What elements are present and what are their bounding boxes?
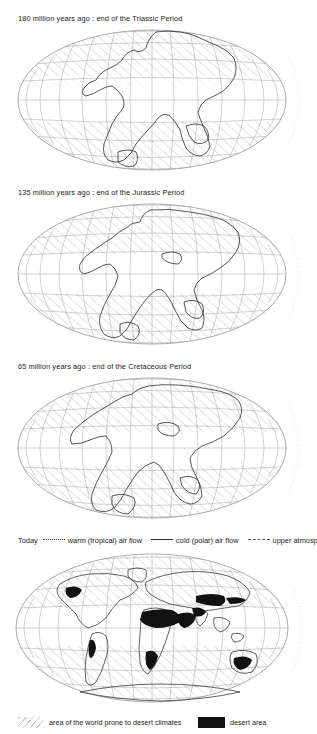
- caption-today: Today: [18, 536, 38, 545]
- legend-upper-atmosphere-label: upper atmosphere air flow: [273, 536, 317, 545]
- panel-jurassic: 135 million years ago : end of the Juras…: [0, 188, 317, 350]
- map-cretaceous: [0, 372, 317, 524]
- hatch-swatch-icon: [18, 717, 44, 728]
- globe-today: [0, 548, 317, 708]
- globe-jurassic: [0, 198, 317, 350]
- globe-cretaceous: [0, 372, 317, 524]
- today-legend-row: Today warm (tropical) air flow cold (pol…: [18, 536, 317, 545]
- solid-line-icon: [151, 539, 173, 540]
- legend-desert-area: desert area: [198, 717, 266, 728]
- legend-desert-prone-label: area of the world prone to desert climat…: [49, 718, 181, 727]
- legend-cold-air-flow: cold (polar) air flow: [151, 536, 238, 545]
- caption-jurassic: 135 million years ago : end of the Juras…: [18, 188, 317, 198]
- edge-ticks-today: [290, 580, 303, 676]
- panel-cretaceous: 65 million years ago : end of the Cretac…: [0, 362, 317, 524]
- dash-dot-line-icon: [248, 539, 270, 540]
- panel-triassic: 180 million years ago : end of the Trias…: [0, 14, 317, 176]
- dotted-line-icon: [43, 539, 65, 540]
- edge-ticks-jurassic: [288, 228, 301, 320]
- caption-cretaceous: 65 million years ago : end of the Cretac…: [18, 362, 317, 372]
- legend-upper-atmosphere-air-flow: upper atmosphere air flow: [248, 536, 317, 545]
- bottom-legend: area of the world prone to desert climat…: [0, 712, 317, 734]
- legend-desert-prone: area of the world prone to desert climat…: [18, 717, 181, 728]
- globe-triassic: [0, 24, 317, 176]
- panel-today: [0, 548, 317, 708]
- edge-ticks-cretaceous: [288, 402, 301, 494]
- caption-triassic: 180 million years ago : end of the Trias…: [18, 14, 317, 24]
- legend-warm-air-flow-label: warm (tropical) air flow: [68, 536, 142, 545]
- black-swatch-icon: [198, 717, 225, 728]
- legend-cold-air-flow-label: cold (polar) air flow: [176, 536, 238, 545]
- map-jurassic: [0, 198, 317, 350]
- map-today: [0, 548, 317, 708]
- edge-ticks-triassic: [288, 54, 301, 146]
- legend-warm-air-flow: warm (tropical) air flow: [43, 536, 142, 545]
- legend-desert-area-label: desert area: [230, 718, 266, 727]
- map-triassic: [0, 24, 317, 176]
- figure-page: ··· ········ 180 million years ago : end…: [0, 0, 317, 734]
- page-header-text: ··· ········: [6, 0, 38, 7]
